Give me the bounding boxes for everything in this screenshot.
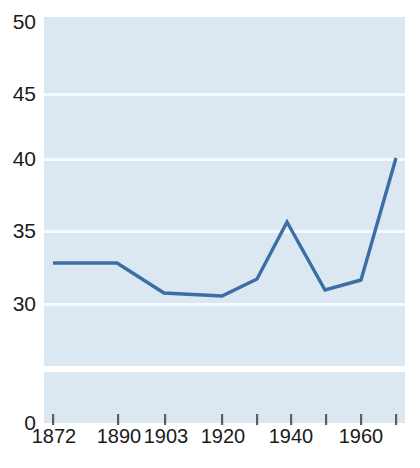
chart-figure: 50 45 40 35 30 0 1872 1890 1903 1920 194… xyxy=(0,0,420,468)
x-tick-label-1960: 1960 xyxy=(339,425,384,447)
x-tick-7 xyxy=(325,414,327,425)
x-tick-4 xyxy=(221,414,223,425)
gridline-45 xyxy=(44,93,405,96)
x-tick-1 xyxy=(52,414,54,425)
line-chart: 50 45 40 35 30 0 1872 1890 1903 1920 194… xyxy=(0,0,420,468)
plot-area-background xyxy=(44,17,405,366)
x-tick-3 xyxy=(164,414,166,425)
gridline-35 xyxy=(44,230,405,233)
y-tick-label-45: 45 xyxy=(13,82,36,105)
x-tick-label-1903: 1903 xyxy=(144,425,189,447)
x-tick-label-1920: 1920 xyxy=(201,425,246,447)
axis-break-gap xyxy=(44,366,405,372)
x-tick-6 xyxy=(290,414,292,425)
x-tick-9 xyxy=(395,414,397,425)
gridline-40 xyxy=(44,158,405,161)
x-tick-label-1872: 1872 xyxy=(32,425,77,447)
x-tick-label-1890: 1890 xyxy=(97,425,142,447)
axis-break-baseline-band xyxy=(44,372,405,423)
x-tick-label-1940: 1940 xyxy=(269,425,314,447)
y-tick-label-30: 30 xyxy=(13,292,36,315)
x-tick-2 xyxy=(117,414,119,425)
gridline-30 xyxy=(44,303,405,306)
x-tick-5 xyxy=(256,414,258,425)
y-tick-label-50: 50 xyxy=(13,10,36,33)
x-tick-8 xyxy=(360,414,362,425)
y-tick-label-40: 40 xyxy=(13,147,36,170)
y-tick-label-35: 35 xyxy=(13,219,36,242)
